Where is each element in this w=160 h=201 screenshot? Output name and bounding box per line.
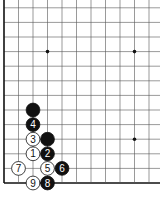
black-stone: 6 xyxy=(55,162,69,176)
go-board: 431275698 xyxy=(0,0,160,201)
white-stone: 3 xyxy=(26,132,40,146)
move-number: 7 xyxy=(16,163,22,174)
move-number: 8 xyxy=(45,178,51,189)
move-number: 2 xyxy=(45,148,51,159)
black-stone xyxy=(26,103,40,117)
move-number: 6 xyxy=(59,163,65,174)
move-number: 1 xyxy=(30,148,36,159)
star-point-icon xyxy=(46,50,50,54)
star-point-icon xyxy=(133,137,137,141)
black-stone xyxy=(41,132,55,146)
move-number: 5 xyxy=(45,163,51,174)
white-stone: 5 xyxy=(41,162,55,176)
white-stone: 9 xyxy=(26,176,40,190)
move-number: 3 xyxy=(30,134,36,145)
move-number: 4 xyxy=(30,119,36,130)
stones: 431275698 xyxy=(12,103,69,190)
black-stone: 4 xyxy=(26,118,40,132)
star-point-icon xyxy=(133,50,137,54)
black-stone: 2 xyxy=(41,147,55,161)
move-number: 9 xyxy=(30,178,36,189)
white-stone: 1 xyxy=(26,147,40,161)
black-stone: 8 xyxy=(41,176,55,190)
white-stone: 7 xyxy=(12,162,26,176)
